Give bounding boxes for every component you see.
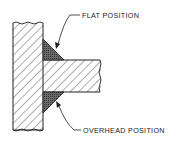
arrow-icon — [55, 42, 60, 49]
overhead-position-leader — [56, 101, 81, 130]
arrow-icon — [56, 101, 61, 108]
weld-position-diagram: FLAT POSITION OVERHEAD POSITION — [0, 0, 190, 145]
vertical-plate — [13, 22, 43, 131]
upper-weld — [43, 39, 64, 60]
flat-position-label: FLAT POSITION — [82, 11, 139, 20]
overhead-position-label: OVERHEAD POSITION — [83, 126, 165, 135]
flat-position-leader — [55, 15, 80, 49]
horizontal-plate — [43, 60, 101, 92]
